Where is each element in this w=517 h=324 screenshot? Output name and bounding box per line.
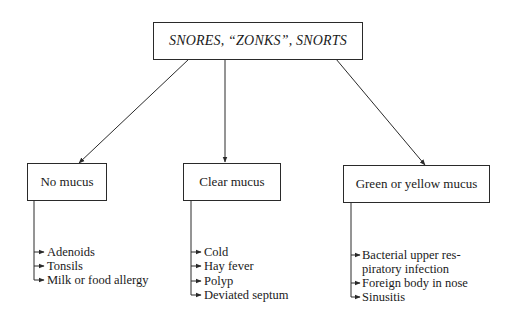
- branch-label: Green or yellow mucus: [356, 176, 478, 192]
- cause-item: Deviated septum: [204, 288, 288, 302]
- root-label: SNORES, “ZONKS”, SNORTS: [169, 33, 347, 49]
- cause-item: Hay fever: [204, 259, 254, 273]
- branch-label: No mucus: [40, 174, 93, 190]
- branch-label: Clear mucus: [199, 174, 264, 190]
- branch-node-clear-mucus: Clear mucus: [183, 163, 281, 201]
- cause-item: Cold: [204, 245, 228, 259]
- cause-item: Milk or food allergy: [47, 273, 149, 287]
- cause-item: Tonsils: [47, 259, 83, 273]
- cause-item: Polyp: [204, 274, 233, 288]
- root-node: SNORES, “ZONKS”, SNORTS: [153, 22, 363, 60]
- cause-item-continued: piratory infection: [362, 262, 449, 276]
- branch-node-green-yellow-mucus: Green or yellow mucus: [343, 165, 490, 203]
- cause-item: Foreign body in nose: [362, 276, 468, 290]
- cause-item: Sinusitis: [362, 290, 405, 304]
- arrow-to-green-mucus: [336, 59, 425, 165]
- arrow-to-no-mucus: [79, 59, 189, 163]
- cause-item: Bacterial upper res-: [362, 248, 461, 262]
- branch-node-no-mucus: No mucus: [27, 163, 107, 201]
- cause-item: Adenoids: [47, 245, 95, 259]
